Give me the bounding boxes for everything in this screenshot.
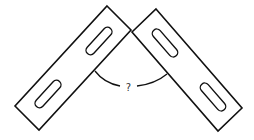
angle-label: ? [126, 82, 131, 93]
right-bracket-bar [132, 9, 242, 131]
angle-arc: ? [95, 71, 167, 93]
left-bracket-bar [15, 6, 131, 130]
angle-bracket-diagram: ? [0, 0, 254, 140]
